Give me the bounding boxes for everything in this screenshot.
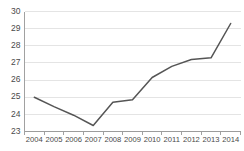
x-tick-label: 2009 bbox=[124, 135, 141, 144]
x-tick-label: 2010 bbox=[144, 135, 161, 144]
y-tick-label: 28 bbox=[11, 40, 21, 50]
x-tick-label: 2004 bbox=[26, 135, 43, 144]
x-tick-label: 2013 bbox=[203, 135, 220, 144]
y-tick-label: 23 bbox=[11, 126, 21, 136]
x-tick-label: 2012 bbox=[183, 135, 200, 144]
chart-canvas: 3029282726252423 20042005200620072008200… bbox=[0, 0, 244, 151]
y-tick-label: 29 bbox=[11, 23, 21, 33]
y-tick-label: 25 bbox=[11, 91, 21, 101]
y-tick-label: 26 bbox=[11, 74, 21, 84]
x-tick-label: 2005 bbox=[46, 135, 63, 144]
y-tick-label: 24 bbox=[11, 109, 21, 119]
axes bbox=[25, 12, 241, 132]
x-tick-label: 2007 bbox=[85, 135, 102, 144]
x-axis-tick-marks bbox=[25, 132, 241, 135]
line-chart: 3029282726252423 20042005200620072008200… bbox=[0, 0, 244, 151]
x-tick-label: 2008 bbox=[104, 135, 121, 144]
y-axis-tick-labels: 3029282726252423 bbox=[11, 6, 21, 136]
y-tick-label: 30 bbox=[11, 6, 21, 16]
x-tick-label: 2011 bbox=[164, 135, 180, 144]
x-tick-label: 2014 bbox=[222, 135, 239, 144]
data-series bbox=[34, 24, 230, 126]
y-tick-label: 27 bbox=[11, 57, 21, 67]
series-line bbox=[34, 24, 230, 126]
gridlines bbox=[25, 12, 241, 132]
x-axis-tick-labels: 2004200520062007200820092010201120122013… bbox=[26, 135, 239, 144]
x-tick-label: 2006 bbox=[65, 135, 82, 144]
